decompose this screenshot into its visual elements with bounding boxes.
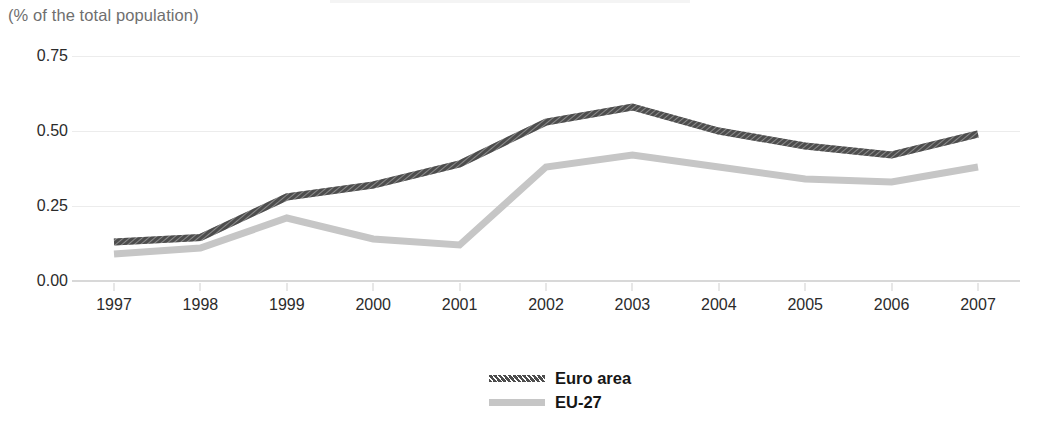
chart-subtitle: (% of the total population) [8, 6, 199, 25]
x-tick-label: 2003 [615, 296, 651, 314]
x-tick-label: 2002 [528, 296, 564, 314]
x-tick-mark [718, 283, 719, 291]
x-tick-label: 2006 [874, 296, 910, 314]
x-tick-label: 1998 [183, 296, 219, 314]
x-tick-mark [546, 283, 547, 291]
legend-label: EU-27 [555, 393, 602, 412]
x-tick-mark [978, 283, 979, 291]
x-tick-mark [373, 283, 374, 291]
legend-swatch-light-solid-line [489, 399, 545, 406]
x-tick-label: 1999 [269, 296, 305, 314]
legend-swatch-dark-hatched-line [489, 375, 545, 382]
x-tick-mark [114, 283, 115, 291]
x-tick-label: 2001 [442, 296, 478, 314]
x-tick-mark [891, 283, 892, 291]
x-tick-mark [632, 283, 633, 291]
x-tick-mark [805, 283, 806, 291]
chart-legend: Euro areaEU-27 [0, 366, 1049, 414]
x-tick-mark [200, 283, 201, 291]
legend-item[interactable]: Euro area [0, 366, 1049, 390]
x-tick-mark [286, 283, 287, 291]
plot-area [72, 56, 1020, 281]
scan-artifact-strip [330, 0, 690, 3]
x-axis: 1997199819992000200120022003200420052006… [72, 296, 1020, 322]
x-tick-label: 2007 [960, 296, 996, 314]
series-container [72, 56, 1020, 281]
x-tick-mark [459, 283, 460, 291]
x-tick-label: 1997 [96, 296, 132, 314]
series-line-euro-area [52, 36, 1042, 306]
x-tick-label: 2000 [355, 296, 391, 314]
legend-label: Euro area [555, 369, 631, 388]
x-tick-label: 2005 [787, 296, 823, 314]
legend-item[interactable]: EU-27 [0, 390, 1049, 414]
x-tick-label: 2004 [701, 296, 737, 314]
